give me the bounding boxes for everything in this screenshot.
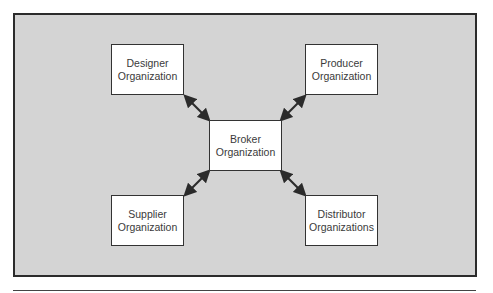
node-designer-organization: Designer Organization bbox=[111, 44, 184, 95]
arrow-designer-broker bbox=[188, 99, 206, 117]
arrow-supplier-broker bbox=[188, 174, 206, 192]
node-supplier-organization: Supplier Organization bbox=[111, 195, 184, 246]
node-label-line1: Supplier bbox=[128, 208, 167, 221]
node-label-line1: Designer bbox=[126, 57, 168, 70]
arrow-distributor-broker bbox=[284, 174, 302, 192]
node-label-line2: Organization bbox=[312, 70, 372, 83]
node-broker-organization: Broker Organization bbox=[209, 120, 282, 171]
node-label-line2: Organization bbox=[118, 70, 178, 83]
node-label-line2: Organizations bbox=[309, 221, 374, 234]
node-producer-organization: Producer Organization bbox=[305, 44, 378, 95]
node-label-line1: Distributor bbox=[318, 208, 366, 221]
node-distributor-organizations: Distributor Organizations bbox=[305, 195, 378, 246]
node-label-line2: Organization bbox=[216, 146, 276, 159]
node-label-line1: Producer bbox=[320, 57, 363, 70]
node-label-line1: Broker bbox=[230, 133, 261, 146]
arrow-producer-broker bbox=[284, 99, 302, 117]
bottom-rule-divider bbox=[13, 290, 476, 291]
node-label-line2: Organization bbox=[118, 221, 178, 234]
